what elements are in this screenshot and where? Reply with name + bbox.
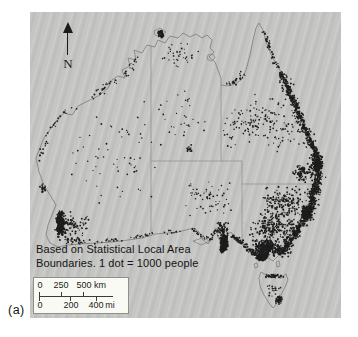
figure-label: (a) [8, 303, 25, 317]
scale-km-unit: km [94, 280, 106, 290]
caption-line-2: Boundaries. 1 dot = 1000 people [36, 257, 226, 271]
caption-line-1: Based on Statistical Local Area [36, 243, 226, 257]
scale-km-0: 0 [37, 280, 42, 290]
scale-tick [61, 292, 62, 296]
map-caption: Based on Statistical Local Area Boundari… [36, 243, 226, 270]
scale-mi-0: 0 [37, 300, 42, 310]
island-outline [276, 261, 280, 267]
island-outline [254, 263, 258, 268]
scale-tick [83, 292, 84, 296]
scale-axis-line [39, 296, 113, 297]
map-panel: N Based on Statistical Local Area Bounda… [30, 12, 341, 318]
north-arrow-stem [67, 31, 69, 55]
scale-mi-400: 400 [88, 300, 103, 310]
scale-km-500: 500 [76, 280, 91, 290]
scale-mi-200: 200 [63, 300, 78, 310]
scale-tick [39, 292, 40, 296]
north-arrow: N [54, 20, 82, 72]
north-label: N [54, 56, 82, 72]
scale-mi-unit: mi [105, 300, 115, 310]
scale-km-250: 250 [53, 280, 68, 290]
scale-bar: 0 250 500 km 0 200 400 mi [33, 277, 129, 314]
